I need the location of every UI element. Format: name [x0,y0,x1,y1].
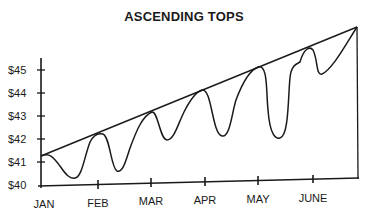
right-edge-line [357,27,358,179]
x-label-may: MAY [246,193,270,205]
y-label-42: $42 [8,133,26,145]
y-label-41: $41 [8,156,26,168]
y-tick-labels: $45 $44 $43 $42 $41 $40 [8,64,26,191]
x-axis [38,178,359,186]
x-label-apr: APR [194,194,217,206]
y-label-44: $44 [8,87,26,99]
x-label-mar: MAR [139,195,164,207]
x-label-june: JUNE [299,192,328,204]
price-curve [41,27,357,178]
x-tick-labels: JAN FEB MAR APR MAY JUNE [34,192,328,210]
x-label-jan: JAN [34,198,55,210]
chart-plot: $45 $44 $43 $42 $41 $40 JAN FEB MAR APR … [0,0,368,220]
y-label-40: $40 [8,179,26,191]
x-ticks [98,175,313,189]
y-label-45: $45 [8,64,26,76]
y-label-43: $43 [8,110,26,122]
x-label-feb: FEB [87,197,108,209]
